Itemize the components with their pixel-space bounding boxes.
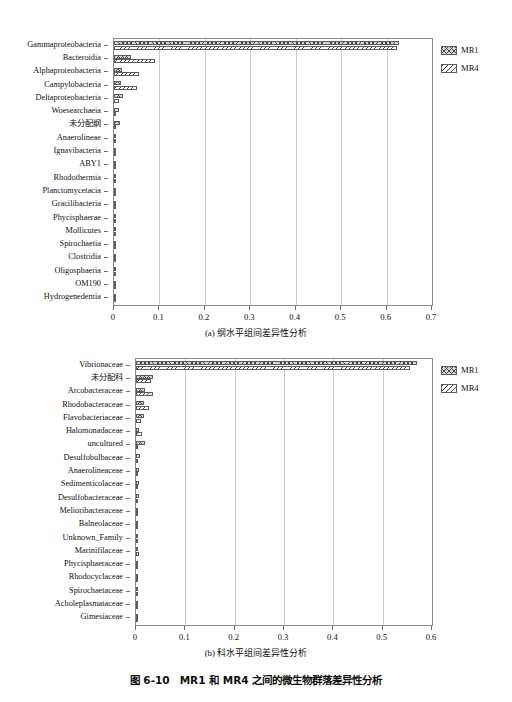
legend-swatch-mr1-icon [441, 366, 457, 375]
bar-mr1 [114, 81, 121, 85]
bar-group [114, 159, 432, 172]
category-label: Anaerolineaceae [68, 466, 123, 475]
x-axis-tick-label: 0 [133, 632, 137, 642]
category-label: Spirochaetia [60, 239, 101, 248]
figure-caption: 图 6-10 MR1 和 MR4 之间的微生物群落差异性分析 [0, 672, 512, 687]
panel-a-x-axis: 00.10.20.30.40.50.60.7 [113, 306, 433, 328]
y-axis-tick [104, 231, 108, 232]
y-axis-tick [126, 378, 130, 379]
legend-label-mr1: MR1 [461, 365, 479, 375]
bar-group [136, 585, 432, 598]
bar-group [114, 119, 432, 132]
x-axis-tick-label: 0.2 [228, 632, 239, 642]
y-axis-tick [104, 111, 108, 112]
bar-group [114, 39, 432, 52]
x-axis-tick-label: 0.3 [244, 312, 255, 322]
bar-mr4 [114, 205, 116, 209]
bar-mr4 [136, 618, 138, 622]
y-axis-tick [126, 591, 130, 592]
category-label: Woesearchaeia [51, 106, 101, 115]
category-label: Rhodocyclaceae [69, 572, 123, 581]
bar-mr4 [114, 179, 116, 183]
bar-mr1 [136, 441, 145, 445]
x-axis-tick [113, 306, 114, 310]
bar-mr1 [114, 241, 116, 245]
bar-group [136, 598, 432, 611]
category-label: Acholeplasmataceae [55, 599, 123, 608]
bar-group [114, 145, 432, 158]
y-axis-tick [126, 391, 130, 392]
category-label: Anaerolineae [57, 133, 101, 142]
category-label: 未分配科 [91, 373, 123, 382]
bar-mr4 [136, 392, 153, 396]
x-axis-tick [431, 306, 432, 310]
bar-mr1 [114, 55, 131, 59]
y-axis-tick [104, 204, 108, 205]
bar-mr1 [114, 214, 116, 218]
y-axis-tick [104, 271, 108, 272]
bar-group [114, 252, 432, 265]
y-axis-tick [126, 511, 130, 512]
bar-mr1 [114, 108, 119, 112]
bar-mr4 [114, 165, 116, 169]
panel-b-legend: MR1 MR4 [441, 358, 511, 398]
bar-group [136, 479, 432, 492]
bar-mr1 [114, 94, 123, 98]
bar-group [114, 225, 432, 238]
bar-mr4 [136, 539, 138, 543]
bar-group [136, 492, 432, 505]
x-axis-tick-label: 0.3 [278, 632, 289, 642]
y-axis-tick [104, 297, 108, 298]
y-axis-tick [104, 124, 108, 125]
category-label: Campylobacteria [44, 80, 101, 89]
x-axis-tick [158, 306, 159, 310]
legend-item-mr1: MR1 [441, 365, 479, 375]
x-axis-tick-label: 0.5 [335, 312, 346, 322]
legend-label-mr4: MR4 [461, 63, 479, 73]
x-axis-tick [135, 626, 136, 630]
bar-mr1 [136, 388, 145, 392]
category-label: ABY1 [79, 159, 101, 168]
y-axis-tick [126, 498, 130, 499]
category-label: Marinifilaceae [75, 546, 123, 555]
y-axis-tick [104, 218, 108, 219]
legend-swatch-mr1-icon [441, 46, 457, 55]
bar-mr1 [114, 68, 122, 72]
x-axis-tick [184, 626, 185, 630]
bar-mr4 [136, 565, 138, 569]
bar-group [114, 185, 432, 198]
x-axis-tick-label: 0.7 [426, 312, 437, 322]
bar-mr1 [136, 454, 140, 458]
y-axis-tick [126, 365, 130, 366]
category-label: Mollicutes [66, 226, 102, 235]
y-axis-tick [104, 45, 108, 46]
bar-mr1 [114, 174, 116, 178]
y-axis-tick [104, 257, 108, 258]
panel-a-plot-area [113, 38, 433, 306]
bar-mr1 [114, 161, 116, 165]
bar-mr4 [114, 59, 155, 63]
bar-group [114, 265, 432, 278]
bar-group [136, 545, 432, 558]
y-axis-tick [104, 151, 108, 152]
panel-a-legend: MR1 MR4 [441, 38, 511, 78]
bar-group [136, 612, 432, 625]
bar-group [136, 399, 432, 412]
bar-mr4 [114, 152, 116, 156]
y-axis-tick [104, 164, 108, 165]
bar-mr4 [114, 139, 116, 143]
bar-group [136, 426, 432, 439]
y-axis-tick [126, 431, 130, 432]
bar-mr4 [136, 552, 139, 556]
bar-mr4 [136, 366, 410, 370]
bar-mr4 [114, 125, 116, 129]
bar-mr1 [136, 468, 139, 472]
x-axis-tick [283, 626, 284, 630]
bar-mr1 [114, 188, 116, 192]
bar-mr4 [114, 219, 116, 223]
bar-group [136, 452, 432, 465]
category-label: Ignavibacteria [54, 146, 101, 155]
category-label: Halomonadaceae [66, 426, 123, 435]
bar-mr4 [114, 298, 116, 302]
bar-mr1 [114, 121, 120, 125]
